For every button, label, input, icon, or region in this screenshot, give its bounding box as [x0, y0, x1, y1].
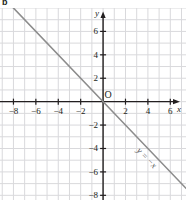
x-tick-label: 6 — [168, 107, 173, 116]
y-tick-label: 6 — [94, 27, 99, 36]
x-tick-label: −6 — [31, 107, 41, 116]
x-tick-label: 2 — [123, 107, 128, 116]
x-tick-label: −2 — [76, 107, 86, 116]
x-tick-label: −8 — [9, 107, 19, 116]
panel-letter: b — [2, 0, 8, 7]
y-axis-label: y — [95, 9, 99, 18]
x-tick-label: 4 — [146, 107, 151, 116]
y-tick-label: −8 — [89, 191, 99, 200]
coordinate-plane: −8−6−4−2246 642−2−4−6−8 x y O y = −x — [0, 8, 186, 200]
y-tick-label: −4 — [89, 144, 99, 153]
y-tick-label: −2 — [89, 121, 99, 130]
y-tick-label: 4 — [94, 50, 99, 59]
y-tick-label: 2 — [94, 74, 99, 83]
x-axis-label: x — [177, 105, 181, 114]
y-tick-label: −6 — [89, 167, 99, 176]
origin-label: O — [105, 90, 112, 100]
x-tick-label: −4 — [53, 107, 63, 116]
figure-panel: b −8−6−4−2246 642−2−4−6−8 x y O y = −x — [0, 0, 186, 200]
